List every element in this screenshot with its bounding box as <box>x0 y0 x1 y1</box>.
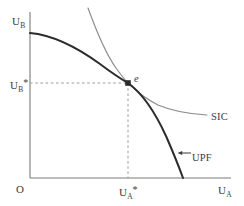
equilibrium-point-marker <box>125 80 131 86</box>
figure-container: UB UB* O UA* UA e SIC UPF <box>0 0 244 206</box>
y-axis-label-base: U <box>12 15 20 27</box>
guide-lines-group <box>30 83 128 178</box>
x-optimum-label-subscript: A <box>127 192 132 201</box>
upf-pointer-arrow <box>178 151 192 155</box>
y-optimum-label: UB* <box>10 76 28 92</box>
y-optimum-label-base: U <box>10 79 18 91</box>
equilibrium-point-label-base: e <box>134 73 139 84</box>
y-axis-label: UB <box>12 12 25 28</box>
origin-label: O <box>16 180 24 196</box>
y-axis-label-subscript: B <box>20 21 25 30</box>
equilibrium-point-label: e <box>134 69 139 85</box>
upf-curve-label-base: UPF <box>192 152 212 163</box>
x-optimum-label-base: U <box>119 186 127 198</box>
origin-label-base: O <box>16 183 24 195</box>
sic-curve-label-base: SIC <box>211 111 228 122</box>
x-axis-label: UA <box>218 181 231 197</box>
y-optimum-label-star: * <box>23 77 28 88</box>
sic-curve-label: SIC <box>211 107 228 123</box>
x-axis-label-base: U <box>218 184 226 196</box>
upf-curve-label: UPF <box>192 148 212 164</box>
x-axis-label-subscript: A <box>226 190 231 199</box>
x-optimum-label-star: * <box>133 184 138 195</box>
x-optimum-label: UA* <box>119 183 137 199</box>
sic-curve <box>88 8 207 115</box>
utility-possibility-frontier-chart <box>0 0 244 206</box>
